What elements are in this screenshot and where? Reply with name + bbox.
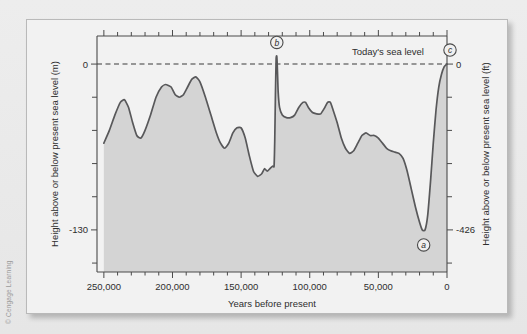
y-axis-title-left: Height above or below present sea level … — [49, 61, 60, 247]
bottom-ticks — [104, 272, 447, 278]
x-tick-label: 150,000 — [224, 281, 258, 292]
annotation-marker-c: c — [444, 44, 456, 56]
left-axis-ticks — [91, 64, 97, 263]
y-axis-title-right: Height above or below present sea level … — [480, 62, 491, 245]
x-tick-label: 100,000 — [293, 281, 327, 292]
x-axis-tick-labels: 250,000200,000150,000100,00050,0000 — [87, 281, 450, 292]
sea-level-chart: Today's sea level 250,000200,000150,0001… — [26, 19, 508, 314]
y-right-tick-label: 0 — [456, 59, 461, 70]
annotation-marker-a: a — [417, 239, 429, 251]
y-left-tick-label: -130 — [69, 224, 88, 235]
y-right-tick-label: -426 — [456, 224, 475, 235]
x-axis-title: Years before present — [228, 298, 316, 309]
figure-root: © Cengage Learning Today's sea level 250… — [0, 0, 527, 334]
top-minor-ticks — [104, 30, 447, 36]
right-axis-ticks — [447, 64, 453, 263]
marker-label: b — [274, 38, 279, 48]
right-axis-tick-labels: 0-426 — [456, 59, 475, 236]
y-left-tick-label: 0 — [83, 59, 88, 70]
x-tick-label: 50,000 — [364, 281, 393, 292]
x-tick-label: 250,000 — [87, 281, 121, 292]
x-tick-label: 200,000 — [155, 281, 189, 292]
todays-sea-level-label: Today's sea level — [352, 46, 424, 57]
marker-label: a — [421, 240, 426, 250]
left-axis-tick-labels: 0-130 — [69, 59, 88, 236]
x-tick-label: 0 — [444, 281, 449, 292]
annotation-marker-b: b — [271, 36, 283, 48]
